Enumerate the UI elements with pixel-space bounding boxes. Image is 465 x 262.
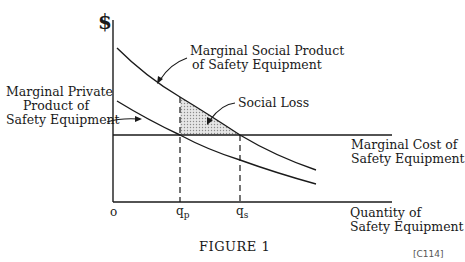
marginal-cost-label-line1: Marginal Cost of	[351, 138, 465, 152]
x-axis-label: Quantity of Safety Equipment	[350, 206, 464, 234]
private-product-label-line3: Safety Equipment	[6, 113, 106, 127]
qs-tick-label: qs	[236, 204, 248, 222]
private-product-label-line2: Product of	[6, 99, 106, 113]
marginal-private-product-curve	[117, 101, 316, 184]
qs-base: q	[236, 204, 244, 218]
social-product-label-line1: Marginal Social Product	[190, 44, 344, 58]
origin-label: o	[110, 205, 117, 219]
qp-base: q	[176, 204, 184, 218]
private-product-label: Marginal Private Product of Safety Equip…	[6, 85, 106, 127]
qs-sub: s	[244, 210, 249, 220]
private-product-label-line1: Marginal Private	[6, 85, 106, 99]
figure-tag: [C114]	[413, 247, 444, 261]
social-product-label: Marginal Social Product of Safety Equipm…	[190, 44, 344, 72]
marginal-cost-label-line2: Safety Equipment	[351, 152, 465, 166]
qp-tick-label: qp	[176, 204, 189, 222]
y-axis-label: $	[98, 12, 112, 32]
private-label-arrowhead	[135, 116, 142, 122]
social-label-arrow	[160, 58, 187, 80]
social-product-label-line2: of Safety Equipment	[190, 58, 344, 72]
marginal-cost-label: Marginal Cost of Safety Equipment	[351, 138, 465, 166]
x-axis-label-line1: Quantity of	[350, 206, 464, 220]
social-loss-label: Social Loss	[238, 96, 309, 110]
figure-caption: FIGURE 1	[199, 240, 270, 254]
x-axis-label-line2: Safety Equipment	[350, 220, 464, 234]
qp-sub: p	[184, 210, 190, 220]
